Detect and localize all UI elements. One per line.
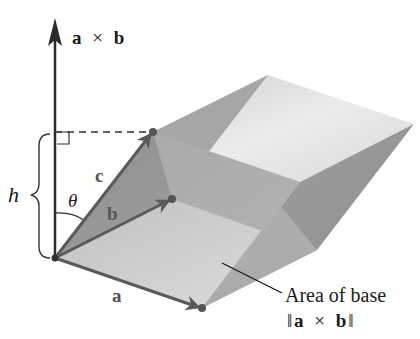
vector-c-label: c	[95, 165, 103, 186]
theta-arc	[55, 213, 84, 220]
axis-label: a × b	[72, 27, 124, 48]
vector-b-tip	[168, 195, 176, 203]
vector-a-tip	[198, 304, 206, 312]
parallelepiped-diagram: a × b h θ c b a Area of base ‖ a × b ‖	[0, 0, 420, 339]
height-brace	[31, 134, 50, 258]
vector-b-label: b	[107, 203, 118, 224]
origin-point	[52, 255, 59, 262]
height-label: h	[8, 182, 19, 207]
right-angle-marker	[57, 132, 69, 144]
theta-label: θ	[68, 190, 77, 211]
vector-c-tip	[149, 128, 157, 136]
base-area-formula: ‖ a × b ‖	[287, 310, 353, 331]
vector-a-label: a	[112, 285, 122, 306]
base-area-label: Area of base	[285, 284, 386, 306]
